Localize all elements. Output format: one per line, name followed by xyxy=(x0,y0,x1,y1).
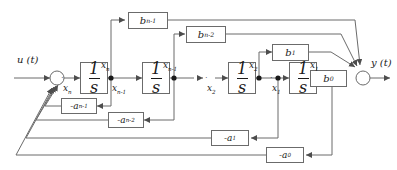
gain-a-n-2-subscript: n-2 xyxy=(126,117,135,123)
gain-b-n-1-subscript: n-1 xyxy=(146,17,156,24)
label-derivative-x1: ̇x1 xyxy=(272,84,281,95)
input-summer-circle xyxy=(50,71,64,85)
gain-block-a-1[interactable]: -a1 xyxy=(211,130,249,146)
integrator-n-1-denominator: s xyxy=(152,80,160,95)
gain-a-n-2-base: -a xyxy=(117,115,125,125)
gain-block-b-n-1[interactable]: bn-1 xyxy=(128,12,168,29)
integrator-n-1-numerator: 1 xyxy=(151,61,161,76)
gain-block-b-n-2[interactable]: bn-2 xyxy=(186,26,226,43)
integrator-1-denominator: s xyxy=(299,80,307,95)
label-derivative-x2: ̇x2 xyxy=(207,84,216,95)
gain-block-a-n-2[interactable]: -an-2 xyxy=(108,112,144,128)
wire-a1-to-summer xyxy=(26,87,54,138)
label-output-signal: y (t) xyxy=(371,58,392,68)
gain-block-b-1[interactable]: b1 xyxy=(272,44,309,61)
wire-a0-to-summer xyxy=(16,88,52,155)
integrator-n-denominator: s xyxy=(90,80,98,95)
label-state-x1: x1 xyxy=(310,61,319,72)
node-xn-1 xyxy=(171,75,176,80)
label-state-xn: xn xyxy=(101,61,110,72)
label-input-signal: u (t) xyxy=(17,55,38,65)
label-state-x2: x2 xyxy=(249,61,258,72)
integrator-1-numerator: 1 xyxy=(298,61,308,76)
block-diagram-canvas: 1 s 1 s 1 s 1 s bn-1 bn-2 b1 b xyxy=(0,0,397,170)
gain-b-1-subscript: 1 xyxy=(292,49,296,56)
gain-a-n-1-base: -a xyxy=(70,101,78,111)
node-x1-dot xyxy=(275,75,280,80)
gain-b-0-subscript: 0 xyxy=(330,75,334,82)
gain-block-a-n-1[interactable]: -an-1 xyxy=(61,98,97,114)
gain-block-a-0[interactable]: -a0 xyxy=(266,147,304,163)
gain-a-1-base: -a xyxy=(224,133,232,143)
label-derivative-xn: ̇xn xyxy=(63,84,72,95)
node-xn xyxy=(108,75,113,80)
integrator-n-numerator: 1 xyxy=(89,61,99,76)
output-summer-circle xyxy=(356,71,370,85)
integrator-2-denominator: s xyxy=(238,80,246,95)
gain-a-0-base: -a xyxy=(279,150,287,160)
gain-a-1-subscript: 1 xyxy=(232,135,236,141)
gain-a-n-1-subscript: n-1 xyxy=(79,103,88,109)
label-state-xn-1: xn-1 xyxy=(163,61,177,72)
gain-block-b-0[interactable]: b0 xyxy=(310,70,347,87)
integrator-2-numerator: 1 xyxy=(237,61,247,76)
node-x2 xyxy=(256,75,261,80)
wire-bn1-to-summer xyxy=(355,20,360,65)
label-derivative-xn-1: ̇xn-1 xyxy=(112,84,126,95)
gain-a-0-subscript: 0 xyxy=(287,152,291,158)
gain-b-n-2-subscript: n-2 xyxy=(204,31,214,38)
wire-bn2-to-summer xyxy=(341,34,357,66)
